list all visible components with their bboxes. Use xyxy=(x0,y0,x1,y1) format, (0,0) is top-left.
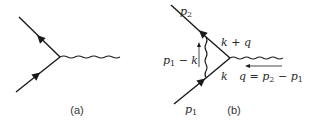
arrow-up-icon xyxy=(197,42,201,47)
caption-a: (a) xyxy=(70,104,83,116)
label-k: k xyxy=(221,70,228,83)
arrow-left-icon xyxy=(245,64,250,68)
panel-b: p2 k + q p1 − k k q = p2 − p1 p1 (b) xyxy=(163,5,303,117)
label-p1: p1 xyxy=(185,103,197,117)
label-p2: p2 xyxy=(180,5,192,19)
photon-wavy-line xyxy=(60,56,120,58)
feynman-diagrams: (a) p2 k + q p1 − k k q = p2 − p1 p1 (b) xyxy=(0,0,313,126)
photon-wavy-line xyxy=(230,57,283,59)
label-q-definition: q = p2 − p1 xyxy=(239,70,303,84)
label-k-plus-q: k + q xyxy=(221,36,251,49)
internal-photon-wavy-line xyxy=(205,37,207,78)
label-p1-minus-k: p1 − k xyxy=(163,54,198,68)
caption-b: (b) xyxy=(227,104,240,116)
panel-a: (a) xyxy=(16,17,120,116)
